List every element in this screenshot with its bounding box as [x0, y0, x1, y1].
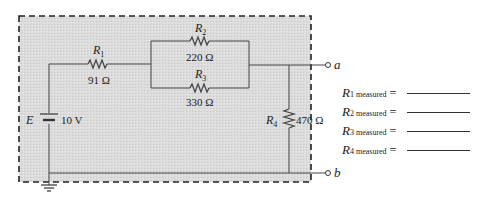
ground-icon	[41, 185, 57, 191]
measurement-r4-sub: 4 measured	[350, 147, 387, 156]
measurement-r4-label: R	[342, 142, 350, 157]
circuit-diagram: a b E 10 V R1 91 Ω R2 220 Ω R3 330 Ω R4 …	[0, 0, 483, 202]
measurement-r3-sub: 3 measured	[350, 128, 387, 137]
measurement-r1-sub: 1 measured	[350, 90, 387, 99]
source-label: E	[25, 113, 34, 127]
measurement-r2-blank[interactable]	[407, 112, 470, 113]
measurement-r1-label: R	[342, 85, 350, 100]
r3-value: 330 Ω	[186, 96, 213, 108]
terminal-b-label: b	[334, 165, 341, 180]
equals-sign: =	[390, 143, 397, 157]
source-value: 10 V	[61, 114, 83, 126]
measurement-r4-blank[interactable]	[407, 150, 470, 151]
measurement-r3-label: R	[342, 123, 350, 138]
measurement-row-r1: R1 measured =	[342, 85, 470, 101]
measurement-row-r2: R2 measured =	[342, 104, 470, 120]
equals-sign: =	[390, 86, 397, 100]
measurement-row-r3: R3 measured =	[342, 123, 470, 139]
measurement-r2-sub: 2 measured	[350, 109, 387, 118]
terminal-a-node	[326, 63, 331, 68]
r2-value: 220 Ω	[186, 51, 213, 63]
terminal-b-node	[326, 171, 331, 176]
measurement-r1-blank[interactable]	[407, 93, 470, 94]
equals-sign: =	[390, 124, 397, 138]
measurement-r2-label: R	[342, 104, 350, 119]
measurement-row-r4: R4 measured =	[342, 142, 470, 158]
measurement-r3-blank[interactable]	[407, 131, 470, 132]
terminal-a-label: a	[334, 57, 341, 72]
r4-value: 470 Ω	[296, 114, 323, 126]
equals-sign: =	[390, 105, 397, 119]
r1-value: 91 Ω	[88, 74, 110, 86]
